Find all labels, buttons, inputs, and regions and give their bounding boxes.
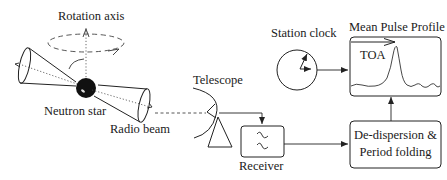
station-clock-icon xyxy=(277,50,317,90)
rotation-axis xyxy=(48,28,124,86)
station-clock-label: Station clock xyxy=(271,27,337,40)
neutron-star xyxy=(76,78,96,98)
rotation-axis-label: Rotation axis xyxy=(58,10,124,23)
radio-beam-label: Radio beam xyxy=(110,123,170,136)
pulsar-timing-diagram: Rotation axis Neutron star Radio beam Te… xyxy=(0,0,447,180)
neutron-star-label: Neutron star xyxy=(44,105,106,118)
mean-pulse-profile-label: Mean Pulse Profile xyxy=(349,21,445,34)
mean-pulse-profile-box xyxy=(350,37,441,96)
dedispersion-label: De-dispersion & Period folding xyxy=(350,127,441,161)
dedispersion-label-line1: De-dispersion & xyxy=(350,127,441,144)
edge-telescope-receiver xyxy=(219,113,262,124)
toa-label: TOA xyxy=(360,49,385,62)
receiver-box xyxy=(241,126,284,157)
telescope-icon xyxy=(193,88,232,147)
dedispersion-label-line2: Period folding xyxy=(350,144,441,161)
receiver-label: Receiver xyxy=(239,160,283,173)
telescope-label: Telescope xyxy=(193,74,243,87)
